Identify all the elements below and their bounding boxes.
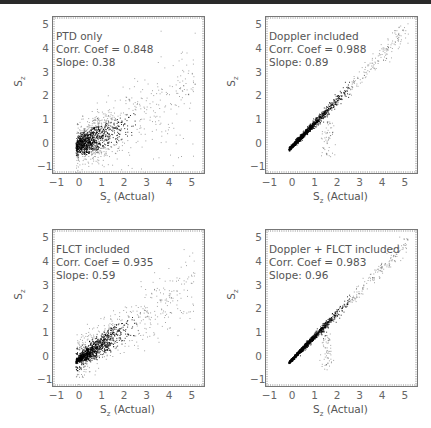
y-tick-label: 5	[250, 231, 262, 243]
scatter-panel-ptd: PTD onlyCorr. Coef = 0.848Slope: 0.38543…	[0, 0, 215, 214]
y-label-symbol: S	[12, 80, 24, 87]
annotation-corr: Corr. Coef = 0.983	[269, 256, 400, 269]
x-tick-label: 4	[161, 389, 177, 401]
x-tick-label: 5	[184, 389, 200, 401]
x-tick-label: 2	[329, 389, 345, 401]
y-tick-label: 0	[37, 350, 49, 362]
y-tick-label: 5	[37, 18, 49, 30]
x-tick-label: 5	[397, 176, 413, 188]
x-tick-label: 1	[94, 176, 110, 188]
y-tick-label: 1	[250, 113, 262, 125]
x-axis-label: Sz (Actual)	[313, 190, 368, 205]
scatter-panel-flct: FLCT includedCorr. Coef = 0.935Slope: 0.…	[0, 213, 215, 427]
y-tick-label: 3	[37, 66, 49, 78]
x-tick-label: 1	[307, 176, 323, 188]
y-label-symbol: S	[12, 293, 24, 300]
y-tick-label: −1	[37, 160, 49, 172]
x-tick-label: −1	[262, 176, 278, 188]
x-label-text: (Actual)	[323, 403, 367, 415]
x-tick-label: 2	[116, 389, 132, 401]
x-tick-label: 5	[397, 389, 413, 401]
y-axis-label: Sz	[225, 289, 240, 299]
x-tick-label: −1	[262, 389, 278, 401]
y-label-subscript: z	[19, 76, 27, 80]
x-tick-label: 0	[71, 176, 87, 188]
y-label-subscript: z	[19, 289, 27, 293]
x-tick-label: 3	[139, 176, 155, 188]
y-tick-label: 2	[37, 89, 49, 101]
scatter-panel-doppler: Doppler includedCorr. Coef = 0.988Slope:…	[213, 0, 428, 214]
x-tick-label: 2	[116, 176, 132, 188]
plot-area: Doppler + FLCT includedCorr. Coef = 0.98…	[265, 229, 418, 387]
x-tick-label: 3	[352, 389, 368, 401]
x-tick-label: 0	[284, 389, 300, 401]
panel-annotation: FLCT includedCorr. Coef = 0.935Slope: 0.…	[56, 243, 153, 282]
annotation-label: Doppler + FLCT included	[269, 243, 400, 256]
annotation-slope: Slope: 0.89	[269, 56, 366, 69]
y-tick-label: 4	[37, 255, 49, 267]
y-tick-label: −1	[250, 373, 262, 385]
annotation-slope: Slope: 0.59	[56, 269, 153, 282]
x-tick-label: 4	[374, 389, 390, 401]
y-axis-label: Sz	[12, 289, 27, 299]
y-label-symbol: S	[225, 80, 237, 87]
x-label-text: (Actual)	[323, 190, 367, 202]
y-tick-label: 0	[250, 137, 262, 149]
y-tick-label: 5	[250, 18, 262, 30]
annotation-label: FLCT included	[56, 243, 153, 256]
panel-annotation: Doppler + FLCT includedCorr. Coef = 0.98…	[269, 243, 400, 282]
x-tick-label: 4	[374, 176, 390, 188]
scatter-panel-doppler_flct: Doppler + FLCT includedCorr. Coef = 0.98…	[213, 213, 428, 427]
x-axis-label: Sz (Actual)	[100, 190, 155, 205]
y-label-subscript: z	[232, 76, 240, 80]
y-tick-label: 4	[250, 255, 262, 267]
annotation-slope: Slope: 0.96	[269, 269, 400, 282]
plot-area: Doppler includedCorr. Coef = 0.988Slope:…	[265, 16, 418, 174]
x-tick-label: −1	[49, 389, 65, 401]
y-tick-label: 2	[250, 302, 262, 314]
y-tick-label: 3	[250, 66, 262, 78]
annotation-corr: Corr. Coef = 0.848	[56, 43, 153, 56]
x-label-text: (Actual)	[110, 190, 154, 202]
plot-area: PTD onlyCorr. Coef = 0.848Slope: 0.38	[52, 16, 205, 174]
y-tick-label: 2	[250, 89, 262, 101]
y-tick-label: 0	[250, 350, 262, 362]
x-label-symbol: S	[100, 190, 107, 202]
y-tick-label: 4	[37, 42, 49, 54]
x-axis-label: Sz (Actual)	[313, 403, 368, 418]
annotation-label: PTD only	[56, 30, 153, 43]
y-label-symbol: S	[225, 293, 237, 300]
y-label-subscript: z	[232, 289, 240, 293]
x-tick-label: 4	[161, 176, 177, 188]
y-tick-label: 4	[250, 42, 262, 54]
x-axis-label: Sz (Actual)	[100, 403, 155, 418]
plot-area: FLCT includedCorr. Coef = 0.935Slope: 0.…	[52, 229, 205, 387]
y-tick-label: 3	[37, 279, 49, 291]
y-axis-label: Sz	[225, 76, 240, 86]
y-tick-label: 1	[37, 326, 49, 338]
x-tick-label: 1	[307, 389, 323, 401]
y-tick-label: −1	[250, 160, 262, 172]
y-tick-label: −1	[37, 373, 49, 385]
x-tick-label: 0	[71, 389, 87, 401]
y-tick-label: 5	[37, 231, 49, 243]
annotation-corr: Corr. Coef = 0.988	[269, 43, 366, 56]
x-label-symbol: S	[100, 403, 107, 415]
annotation-corr: Corr. Coef = 0.935	[56, 256, 153, 269]
x-label-symbol: S	[313, 190, 320, 202]
y-tick-label: 3	[250, 279, 262, 291]
x-tick-label: 2	[329, 176, 345, 188]
panel-annotation: PTD onlyCorr. Coef = 0.848Slope: 0.38	[56, 30, 153, 69]
annotation-slope: Slope: 0.38	[56, 56, 153, 69]
x-tick-label: 0	[284, 176, 300, 188]
y-tick-label: 1	[37, 113, 49, 125]
y-axis-label: Sz	[12, 76, 27, 86]
x-tick-label: 3	[139, 389, 155, 401]
y-tick-label: 1	[250, 326, 262, 338]
x-tick-label: 5	[184, 176, 200, 188]
x-label-symbol: S	[313, 403, 320, 415]
x-tick-label: 1	[94, 389, 110, 401]
panel-annotation: Doppler includedCorr. Coef = 0.988Slope:…	[269, 30, 366, 69]
y-tick-label: 0	[37, 137, 49, 149]
x-label-text: (Actual)	[110, 403, 154, 415]
